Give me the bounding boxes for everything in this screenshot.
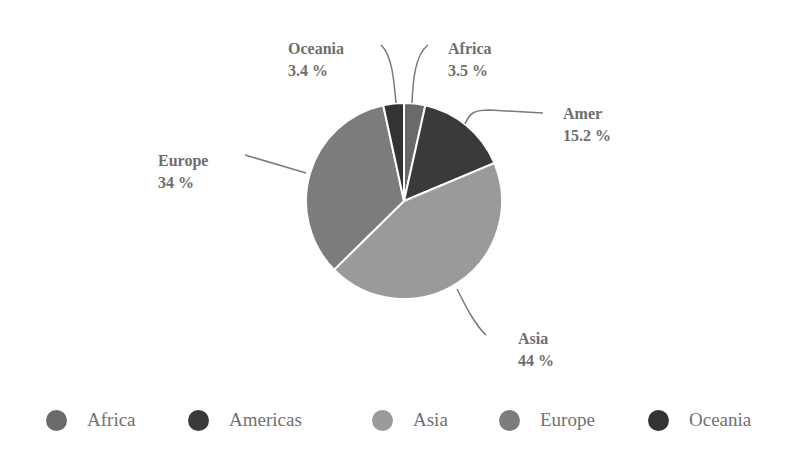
label-americas-value: 15.2 % [563,125,603,147]
legend-label: Africa [87,409,136,431]
label-europe-name: Europe [158,150,208,172]
label-americas: Americas 15.2 % [563,103,603,147]
label-africa-name: Africa [448,38,492,60]
label-oceania: Oceania 3.4 % [288,38,344,82]
legend-item-asia[interactable]: Asia [372,400,448,440]
label-oceania-value: 3.4 % [288,60,344,82]
legend-item-oceania[interactable]: Oceania [648,400,751,440]
label-asia-name: Asia [518,328,554,350]
leader-line-americas [465,110,543,124]
label-asia-value: 44 % [518,350,554,372]
label-americas-name: Americas [563,103,603,125]
legend-dot-icon [372,410,393,431]
label-europe-value: 34 % [158,172,208,194]
legend-item-europe[interactable]: Europe [499,400,595,440]
legend-dot-icon [499,410,520,431]
leader-line-oceania [381,45,396,103]
label-africa-value: 3.5 % [448,60,492,82]
legend-dot-icon [188,410,209,431]
legend-label: Europe [540,409,595,431]
legend-item-americas[interactable]: Americas [188,400,302,440]
legend-dot-icon [46,410,67,431]
legend-label: Americas [229,409,302,431]
label-europe: Europe 34 % [158,150,208,194]
pie-slices [306,103,502,299]
label-oceania-name: Oceania [288,38,344,60]
pie-chart [0,0,803,456]
leader-line-africa [412,45,428,103]
legend-label: Oceania [689,409,751,431]
legend-dot-icon [648,410,669,431]
chart-legend: Africa Americas Asia Europe Oceania [0,400,803,440]
legend-item-africa[interactable]: Africa [46,400,136,440]
leader-line-asia [457,289,486,335]
leader-line-europe [245,155,306,173]
label-asia: Asia 44 % [518,328,554,372]
legend-label: Asia [413,409,448,431]
label-africa: Africa 3.5 % [448,38,492,82]
